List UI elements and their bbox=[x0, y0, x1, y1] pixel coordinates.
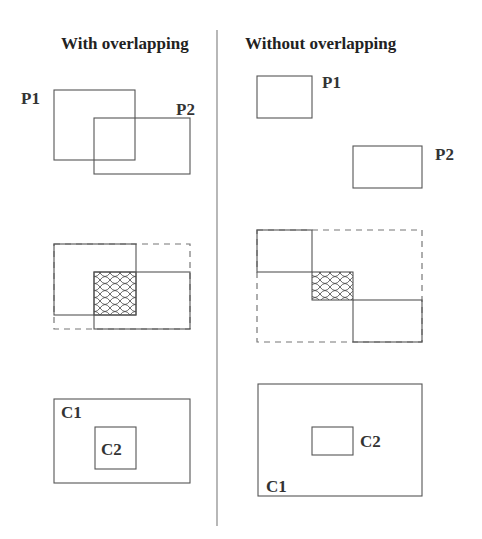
left-c2-label: C2 bbox=[101, 440, 122, 459]
right-p1-rect bbox=[257, 76, 312, 118]
left-p1-label: P1 bbox=[21, 89, 40, 108]
left-row2-bounding-overlap bbox=[54, 244, 190, 329]
left-p2-label: P2 bbox=[176, 100, 195, 119]
right-c1-label: C1 bbox=[266, 477, 287, 496]
right-row3-containment: C1 C2 bbox=[258, 384, 422, 496]
diagram-canvas: With overlapping P1 P2 C1 C2 Without ove… bbox=[0, 0, 482, 539]
right-panel-title: Without overlapping bbox=[245, 34, 397, 53]
left-panel-title: With overlapping bbox=[61, 34, 189, 53]
right-c2-label: C2 bbox=[360, 432, 381, 451]
right-p2-rect-2 bbox=[353, 300, 422, 342]
right-p1-label: P1 bbox=[322, 73, 341, 92]
left-p2-rect bbox=[94, 118, 190, 174]
left-row3-containment: C1 C2 bbox=[54, 399, 190, 483]
right-p1-rect-2 bbox=[257, 230, 312, 272]
left-row1-overlapping-rects: P1 P2 bbox=[21, 89, 195, 174]
right-c2-rect bbox=[312, 427, 353, 455]
right-row2-bounding-gap bbox=[257, 230, 422, 342]
left-overlap-hatch bbox=[94, 272, 136, 315]
left-c1-label: C1 bbox=[61, 403, 82, 422]
right-row1-separate-rects: P1 P2 bbox=[257, 73, 454, 188]
right-p2-label: P2 bbox=[435, 145, 454, 164]
right-gap-hatch bbox=[312, 272, 353, 300]
right-p2-rect bbox=[353, 146, 422, 188]
